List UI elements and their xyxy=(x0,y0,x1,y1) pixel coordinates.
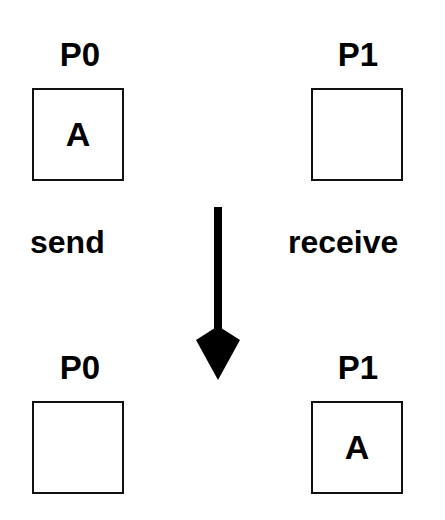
p1-label-after: P1 xyxy=(330,351,386,384)
p0-buffer-before-content: A xyxy=(66,115,91,154)
arrow-down-icon xyxy=(188,203,248,388)
p0-buffer-after xyxy=(32,401,124,494)
send-action-label: send xyxy=(30,226,105,258)
p0-label-after: P0 xyxy=(52,351,108,384)
p1-buffer-after: A xyxy=(311,401,403,494)
p1-buffer-before xyxy=(311,88,403,181)
p1-buffer-after-content: A xyxy=(345,428,370,467)
receive-action-label: receive xyxy=(288,226,398,258)
p1-label-before: P1 xyxy=(330,38,386,71)
p0-label-before: P0 xyxy=(52,38,108,71)
p0-buffer-before: A xyxy=(32,88,124,181)
